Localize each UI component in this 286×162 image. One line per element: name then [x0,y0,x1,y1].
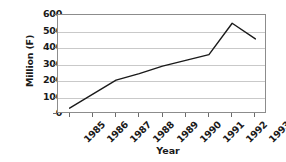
x-axis-tick-mark [231,113,232,117]
x-axis-tick-mark [138,113,139,117]
x-axis-tick-label: 1989 [174,119,200,145]
x-axis-tick-label: 1986 [104,119,130,145]
x-axis-tick-mark [254,113,255,117]
x-axis-tick-label: 1987 [127,119,153,145]
x-axis-title: Year [0,145,286,156]
y-axis-tick-mark [53,113,57,114]
line-chart: Million (F) 0100200300400500600 19851986… [0,0,286,162]
x-axis-tick-label: 1988 [151,119,177,145]
x-axis-tick-mark [69,113,70,117]
x-axis-tick-label: 1990 [197,119,223,145]
x-axis-tick-mark [115,113,116,117]
x-axis-tick-mark [92,113,93,117]
x-axis-tick-label: 1985 [81,119,107,145]
x-axis-tick-mark [208,113,209,117]
series-polyline [70,23,256,108]
x-axis-tick-mark [185,113,186,117]
x-axis-tick-label: 1993 [267,119,286,145]
x-axis-tick-mark [162,113,163,117]
plot-area [57,14,266,113]
x-axis-tick-label: 1991 [220,119,246,145]
x-axis-tick-label: 1992 [244,119,270,145]
data-series-line [58,15,267,114]
